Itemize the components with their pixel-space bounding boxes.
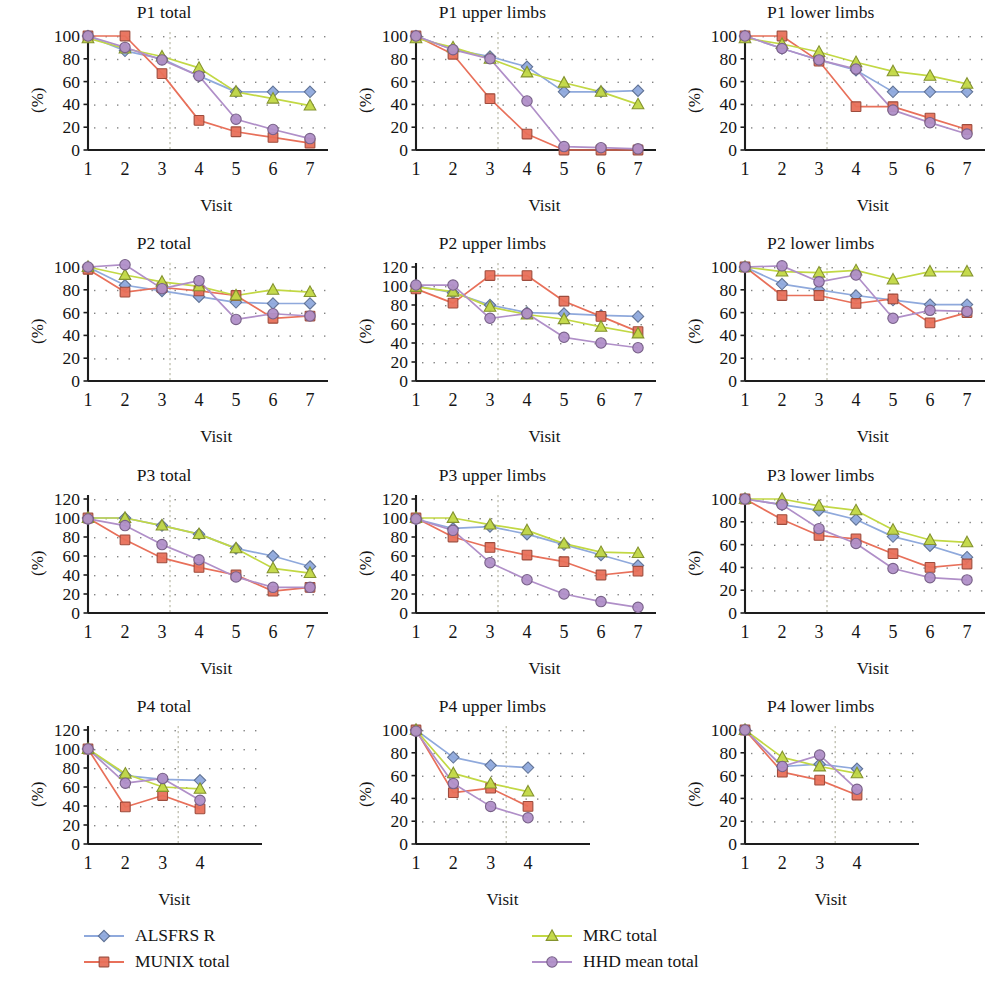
- chart-panel: P4 total0204060801001201234(%)Visit: [0, 694, 328, 925]
- data-point-square: [851, 299, 861, 309]
- chart-title: P3 upper limbs: [328, 465, 656, 486]
- vertical-divider: [178, 726, 179, 843]
- x-tick-label: 1: [84, 622, 93, 642]
- data-point-circle: [739, 31, 749, 41]
- grid-dots: [751, 730, 913, 823]
- data-point-diamond: [304, 86, 315, 97]
- y-tick-label: 80: [63, 758, 81, 778]
- x-axis-label: Visit: [0, 196, 380, 216]
- chart-title: P4 lower limbs: [657, 696, 985, 717]
- y-tick-label: 80: [63, 49, 81, 69]
- x-tick-label: 5: [232, 622, 241, 642]
- grid-dots: [422, 730, 584, 823]
- data-point-diamond: [485, 759, 496, 770]
- y-tick-label: 20: [63, 117, 81, 137]
- x-tick-label: 6: [269, 390, 278, 410]
- x-tick-label: 1: [412, 622, 421, 642]
- y-axis-label: (%): [356, 88, 376, 113]
- x-tick-label: 6: [269, 159, 278, 179]
- data-point-circle: [157, 284, 167, 294]
- legend-label: HHD mean total: [583, 953, 699, 971]
- legend-mrc-total[interactable]: MRC total: [530, 927, 657, 945]
- data-point-diamond: [559, 86, 570, 97]
- data-point-square: [157, 69, 167, 79]
- data-point-triangle: [447, 511, 459, 522]
- x-tick-label: 2: [449, 390, 458, 410]
- data-point-square: [814, 291, 824, 301]
- legend-symbol: [99, 957, 109, 967]
- data-point-square: [523, 801, 533, 811]
- data-point-circle: [485, 54, 495, 64]
- y-tick-label: 20: [719, 348, 737, 368]
- x-tick-label: 7: [962, 390, 971, 410]
- figure-legend: ALSFRS RMUNIX totalMRC totalHHD mean tot…: [0, 925, 985, 981]
- x-tick-label: 2: [777, 622, 786, 642]
- y-tick-label: 20: [719, 580, 737, 600]
- y-tick-label: 0: [400, 834, 409, 854]
- y-tick-label: 60: [63, 303, 81, 323]
- plot-area: 0204060801001201234567: [328, 487, 656, 659]
- data-point-circle: [887, 563, 897, 573]
- data-point-circle: [887, 105, 897, 115]
- y-tick-label: 100: [54, 257, 81, 277]
- data-point-square: [120, 31, 130, 41]
- data-point-square: [522, 550, 532, 560]
- data-point-circle: [596, 338, 606, 348]
- data-point-square: [888, 294, 898, 304]
- y-tick-label: 0: [400, 603, 409, 623]
- data-point-circle: [83, 744, 93, 754]
- x-tick-label: 6: [597, 159, 606, 179]
- data-point-triangle: [924, 266, 936, 277]
- data-point-circle: [813, 55, 823, 65]
- x-tick-label: 3: [158, 159, 167, 179]
- y-axis-label: (%): [685, 781, 705, 806]
- data-point-circle: [814, 750, 824, 760]
- x-tick-label: 2: [449, 159, 458, 179]
- data-point-circle: [776, 43, 786, 53]
- data-point-circle: [633, 343, 643, 353]
- data-point-circle: [739, 262, 749, 272]
- vertical-divider: [506, 726, 507, 843]
- data-point-triangle: [267, 562, 279, 573]
- legend-munix-total[interactable]: MUNIX total: [82, 953, 230, 971]
- x-tick-label: 2: [121, 390, 130, 410]
- data-point-circle: [231, 114, 241, 124]
- y-tick-label: 100: [710, 26, 737, 46]
- x-tick-label: 5: [888, 622, 897, 642]
- x-tick-label: 4: [851, 159, 860, 179]
- vertical-divider: [498, 32, 499, 149]
- data-point-circle: [411, 280, 421, 290]
- legend-hhd-mean-total[interactable]: HHD mean total: [530, 953, 699, 971]
- y-tick-label: 100: [710, 257, 737, 277]
- y-tick-label: 40: [719, 94, 737, 114]
- plot-area: 0204060801001234567: [328, 24, 656, 196]
- data-point-diamond: [850, 513, 861, 524]
- y-tick-label: 40: [391, 333, 409, 353]
- y-tick-label: 60: [63, 72, 81, 92]
- data-point-circle: [83, 31, 93, 41]
- data-point-diamond: [887, 86, 898, 97]
- x-tick-label: 5: [560, 622, 569, 642]
- y-tick-label: 80: [63, 527, 81, 547]
- x-tick-label: 4: [523, 159, 532, 179]
- data-point-square: [633, 566, 643, 576]
- chart-panel: P3 lower limbs0204060801001234567(%)Visi…: [657, 463, 985, 694]
- data-point-circle: [596, 143, 606, 153]
- data-point-circle: [559, 141, 569, 151]
- x-tick-label: 1: [84, 853, 93, 873]
- y-tick-label: 20: [63, 584, 81, 604]
- y-axis-label: (%): [28, 781, 48, 806]
- x-tick-label: 6: [269, 622, 278, 642]
- y-tick-label: 120: [54, 489, 81, 509]
- x-tick-label: 1: [740, 159, 749, 179]
- legend-alsfrs-r[interactable]: ALSFRS R: [82, 927, 215, 945]
- data-point-circle: [485, 557, 495, 567]
- chart-title: P4 total: [0, 696, 328, 717]
- x-tick-label: 2: [449, 622, 458, 642]
- chart-panel: P1 lower limbs0204060801001234567(%)Visi…: [657, 0, 985, 231]
- data-point-square: [596, 570, 606, 580]
- y-tick-label: 100: [710, 489, 737, 509]
- y-tick-label: 0: [71, 371, 80, 391]
- x-tick-label: 3: [158, 622, 167, 642]
- y-tick-label: 80: [719, 743, 737, 763]
